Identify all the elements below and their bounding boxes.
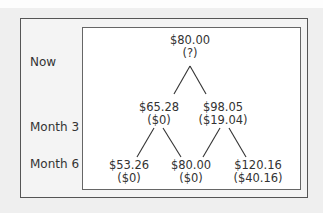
node-month3-up: $98.05 ($19.04) xyxy=(191,101,255,127)
node-month6-up-down: $80.00 ($0) xyxy=(159,159,223,185)
node-month6-down-down: $53.26 ($0) xyxy=(97,159,161,185)
node-now: $80.00 (?) xyxy=(158,34,222,60)
node-month3-down: $65.28 ($0) xyxy=(127,101,191,127)
node-value: ($0) xyxy=(97,172,161,185)
node-value: ($0) xyxy=(159,172,223,185)
node-value: ($19.04) xyxy=(191,114,255,127)
node-value: ($0) xyxy=(127,114,191,127)
node-month6-up-up: $120.16 ($40.16) xyxy=(226,159,290,185)
node-value: (?) xyxy=(158,47,222,60)
node-value: ($40.16) xyxy=(226,172,290,185)
